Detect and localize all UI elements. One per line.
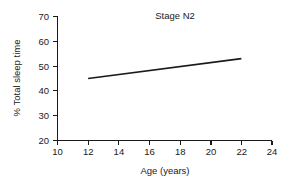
x-tick-label: 24 <box>267 146 278 157</box>
y-axis-ticks <box>53 17 58 141</box>
x-tick-label: 20 <box>206 146 217 157</box>
data-series-group <box>88 59 241 79</box>
y-tick-label: 50 <box>38 61 49 72</box>
x-tick-label: 16 <box>144 146 155 157</box>
x-axis-tick-labels: 10 12 14 16 18 20 22 24 <box>52 146 277 157</box>
x-axis-title: Age (years) <box>140 165 189 176</box>
x-tick-label: 10 <box>52 146 63 157</box>
line-chart: Stage N2 20 30 40 50 60 70 <box>0 0 295 182</box>
y-tick-label: 70 <box>38 11 49 22</box>
chart-figure: Stage N2 20 30 40 50 60 70 <box>0 0 295 182</box>
x-tick-label: 18 <box>175 146 186 157</box>
y-axis-title: % Total sleep time <box>11 40 22 117</box>
x-tick-label: 22 <box>236 146 247 157</box>
y-tick-label: 30 <box>38 110 49 121</box>
y-tick-label: 20 <box>38 135 49 146</box>
y-axis-tick-labels: 20 30 40 50 60 70 <box>38 11 49 146</box>
y-tick-label: 40 <box>38 85 49 96</box>
data-line-stage-n2 <box>88 59 241 79</box>
x-tick-label: 12 <box>83 146 94 157</box>
y-tick-label: 60 <box>38 36 49 47</box>
x-tick-label: 14 <box>114 146 125 157</box>
x-axis-ticks <box>58 141 273 146</box>
chart-title: Stage N2 <box>155 10 195 21</box>
